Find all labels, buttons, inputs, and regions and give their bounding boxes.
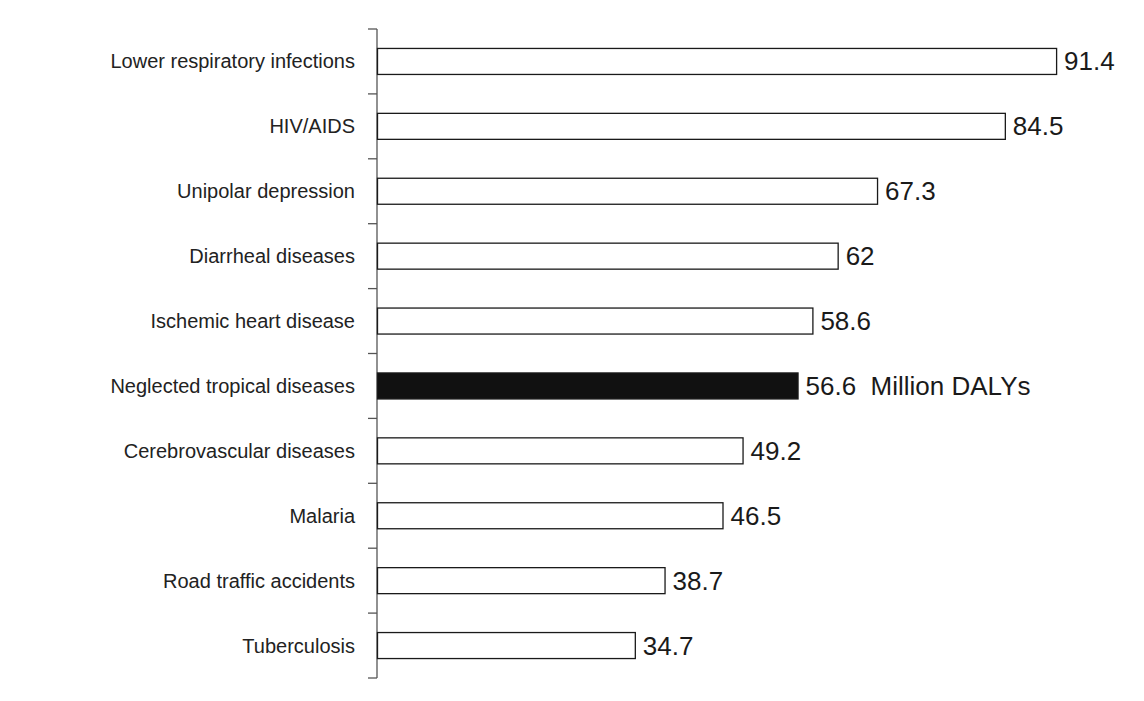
value-label: 91.4 <box>1064 46 1115 76</box>
category-labels: Lower respiratory infectionsHIV/AIDSUnip… <box>110 50 355 656</box>
bar <box>378 308 813 334</box>
value-label: 58.6 <box>820 306 871 336</box>
bar <box>378 503 723 529</box>
category-label: Lower respiratory infections <box>110 50 355 72</box>
bar <box>378 438 744 464</box>
category-label: Road traffic accidents <box>163 570 355 592</box>
bar-highlighted <box>378 373 799 399</box>
category-label: Malaria <box>289 505 355 527</box>
value-label: 67.3 <box>885 176 936 206</box>
bar <box>378 568 666 594</box>
category-label: Tuberculosis <box>242 635 355 657</box>
bar <box>378 48 1057 74</box>
category-label: HIV/AIDS <box>269 115 355 137</box>
value-label: 38.7 <box>673 566 724 596</box>
y-axis <box>368 29 377 678</box>
category-label: Ischemic heart disease <box>150 310 355 332</box>
category-label: Unipolar depression <box>177 180 355 202</box>
bar <box>378 113 1006 139</box>
bar-chart: Lower respiratory infectionsHIV/AIDSUnip… <box>0 0 1144 701</box>
value-label: 46.5 <box>730 501 781 531</box>
value-label: 62 <box>846 241 875 271</box>
bar <box>378 178 878 204</box>
category-label: Neglected tropical diseases <box>110 375 355 397</box>
value-label: 49.2 <box>751 436 802 466</box>
bar <box>378 243 839 269</box>
bar <box>378 633 636 659</box>
category-label: Cerebrovascular diseases <box>124 440 355 462</box>
category-label: Diarrheal diseases <box>189 245 355 267</box>
value-label: 34.7 <box>643 631 694 661</box>
value-label: 56.6 Million DALYs <box>806 371 1031 401</box>
value-label: 84.5 <box>1013 111 1064 141</box>
